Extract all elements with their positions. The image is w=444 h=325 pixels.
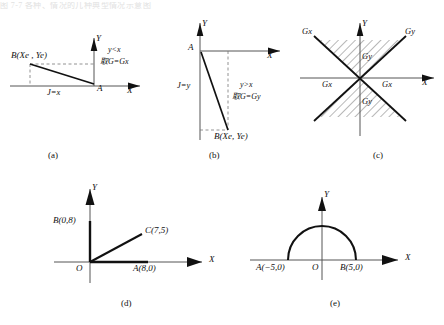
panel-d-label-point-b: B(0,8) xyxy=(53,216,76,225)
panel-e-drawing xyxy=(248,175,438,290)
panel-b-drawing xyxy=(155,18,295,148)
panel-a-caption: (a) xyxy=(48,151,58,160)
panel-c: Gx Gy Gy Gx Gx Gy Y X xyxy=(292,18,444,148)
panel-a-label-j: J=x xyxy=(47,88,60,97)
panel-c-label-left-center: Gx xyxy=(322,80,332,89)
panel-a-label-point-a: A xyxy=(97,84,103,93)
panel-c-label-lower-center: Gy xyxy=(362,97,372,106)
panel-a-segment-ba xyxy=(30,64,94,84)
panel-d-label-origin: O xyxy=(76,264,83,273)
panel-b-axis-x-label: X xyxy=(267,51,273,60)
panel-c-axis-y-label: Y xyxy=(362,19,367,28)
panel-b: A B(Xe, Ye) J=y y>x 取G=Gy Y X xyxy=(155,18,295,148)
panel-d-x-arrowhead xyxy=(187,257,202,267)
panel-d-axis-x-label: X xyxy=(209,255,215,264)
panel-d-label-point-a: A(8,0) xyxy=(133,264,156,273)
panel-e-axis-y-label: Y xyxy=(324,190,329,199)
panel-b-segment-ab xyxy=(201,52,228,130)
panel-a-label-take: 取G=Gx xyxy=(100,58,129,66)
panel-e-axis-x-label: X xyxy=(405,253,411,262)
panel-a-axis-x-label: X xyxy=(127,86,133,95)
panel-d-axis-y-label: Y xyxy=(92,183,97,192)
panel-e-caption: (e) xyxy=(330,299,340,308)
panel-e: A(−5,0) O B(5,0) Y X xyxy=(248,175,438,290)
page-header-strip: 图 7-7 各种、情况的几种典型情况示意图 xyxy=(0,2,444,9)
panel-b-label-point-b: B(Xe, Ye) xyxy=(214,132,248,141)
panel-c-label-top-right: Gy xyxy=(405,27,415,36)
panel-b-label-j: J=y xyxy=(177,81,190,90)
panel-d: B(0,8) C(7,5) A(8,0) O Y X xyxy=(52,175,232,290)
panel-e-x-arrowhead xyxy=(382,255,398,265)
page-header-text: 图 7-7 各种、情况的几种典型情况示意图 xyxy=(0,2,444,9)
panel-d-label-point-c: C(7,5) xyxy=(145,226,168,235)
panel-a-label-point-b: B(Xe , Ye) xyxy=(11,51,47,60)
panel-c-caption: (c) xyxy=(373,151,383,160)
panel-c-label-upper-center: Gy xyxy=(362,52,372,61)
panel-a: B(Xe , Ye) A J=x y<x 取G=Gx Y X xyxy=(0,22,155,112)
panel-a-axis-y-label: Y xyxy=(96,34,101,43)
panel-b-label-condition: y>x xyxy=(240,81,253,89)
panel-a-label-condition: y<x xyxy=(108,46,121,54)
panel-e-label-origin: O xyxy=(312,263,319,272)
panel-c-label-top-left: Gx xyxy=(302,27,312,36)
panel-d-caption: (d) xyxy=(121,299,132,308)
panel-d-segment-oc xyxy=(90,234,142,262)
panel-c-axis-x-label: X xyxy=(422,78,428,87)
panel-c-label-right-center: Gx xyxy=(382,80,392,89)
panel-e-y-arrowhead xyxy=(318,197,326,211)
panel-e-label-point-a: A(−5,0) xyxy=(256,263,285,272)
panel-a-drawing xyxy=(0,22,155,112)
panel-b-axis-y-label: Y xyxy=(202,19,207,28)
panel-b-label-take: 取G=Gy xyxy=(232,93,261,101)
panel-e-label-point-b: B(5,0) xyxy=(340,263,363,272)
panel-b-label-point-a: A xyxy=(188,43,194,52)
panel-b-caption: (b) xyxy=(209,151,220,160)
